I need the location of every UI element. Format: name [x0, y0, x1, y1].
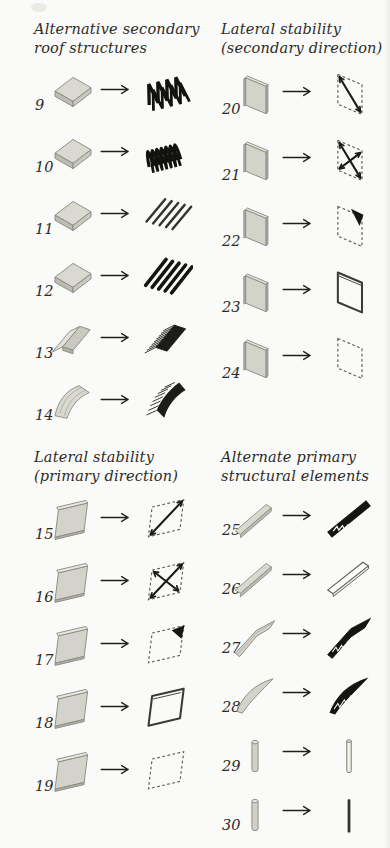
column-solid-icon	[323, 788, 375, 840]
column-icon	[231, 731, 279, 779]
diagram-row: 30	[222, 784, 390, 843]
parallel-joists-icon	[141, 190, 193, 242]
wide-wall-panel-icon	[49, 686, 97, 734]
tall-frame-dashed-icon	[323, 332, 375, 384]
section-lateral-stability-secondary: Lateral stability (secondary direction) …	[217, 20, 390, 391]
truss-beam-icon	[323, 493, 375, 545]
item-number: 12	[35, 283, 49, 309]
item-number: 16	[35, 589, 49, 615]
diagram-row: 24	[222, 325, 390, 391]
diagram-row: 20	[222, 61, 390, 127]
item-number: 11	[35, 221, 49, 247]
section-title: Lateral stability (secondary direction)	[221, 20, 390, 58]
diagram-row: 18	[35, 678, 204, 741]
tall-wall-panel-icon	[231, 136, 279, 184]
arrow-right-icon	[281, 627, 317, 640]
arrow-right-icon	[281, 217, 317, 230]
section-alternate-primary-elements: Alternate primary structural elements 25…	[217, 448, 390, 843]
diagram-row: 17	[35, 615, 204, 678]
section-lateral-stability-primary: Lateral stability (primary direction) 15…	[30, 448, 204, 804]
diagram-rows: 91011121314	[30, 61, 204, 433]
tall-frame-xbrace-icon	[323, 134, 375, 186]
item-number: 30	[222, 817, 231, 843]
open-beam-icon	[323, 552, 375, 604]
wide-wall-panel-icon	[49, 623, 97, 671]
section-title-line: Lateral stability	[221, 20, 390, 39]
diagram-row: 11	[35, 185, 204, 247]
diagram-rows: 2021222324	[217, 61, 390, 391]
diagram-row: 23	[222, 259, 390, 325]
diagram-row: 16	[35, 552, 204, 615]
diagram-row: 25	[222, 489, 390, 548]
column-icon	[231, 790, 279, 838]
arrow-right-icon	[281, 151, 317, 164]
item-number: 19	[35, 778, 49, 804]
item-number: 18	[35, 715, 49, 741]
tall-frame-rigid-icon	[323, 266, 375, 318]
wide-frame-xbrace-icon	[141, 558, 193, 610]
curved-truss-icon	[323, 670, 375, 722]
diagram-rows: 1516171819	[30, 489, 204, 804]
item-number: 9	[35, 97, 49, 123]
item-number: 24	[222, 365, 231, 391]
item-number: 20	[222, 101, 231, 127]
diagram-row: 12	[35, 247, 204, 309]
tapered-beam-icon	[231, 613, 279, 661]
diagram-rows: 252627282930	[217, 489, 390, 843]
column-outline-icon	[323, 729, 375, 781]
section-title: Alternate primary structural elements	[221, 448, 390, 486]
wide-wall-panel-icon	[49, 560, 97, 608]
arrow-right-icon	[281, 804, 317, 817]
tapered-truss-icon	[323, 611, 375, 663]
diagram-row: 28	[222, 666, 390, 725]
section-title-line: roof structures	[34, 39, 204, 58]
zigzag-folded-truss-icon	[141, 66, 193, 118]
beam-icon	[231, 495, 279, 543]
wide-wall-panel-icon	[49, 497, 97, 545]
arrow-right-icon	[281, 283, 317, 296]
diagram-row: 10	[35, 123, 204, 185]
tall-frame-corner-brace-icon	[323, 200, 375, 252]
section-title-line: (secondary direction)	[221, 39, 390, 58]
item-number: 28	[222, 699, 231, 725]
item-number: 10	[35, 159, 49, 185]
curved-beam-icon	[231, 672, 279, 720]
flat-slab-icon	[49, 192, 97, 240]
section-alternative-secondary-roof-structures: Alternative secondary roof structures 91…	[30, 20, 204, 433]
beam-icon	[231, 554, 279, 602]
arrow-right-icon	[99, 511, 135, 524]
diagram-row: 13	[35, 309, 204, 371]
arrow-right-icon	[99, 763, 135, 776]
item-number: 26	[222, 581, 231, 607]
arrow-right-icon	[99, 269, 135, 282]
arrow-right-icon	[99, 145, 135, 158]
wide-frame-rigid-icon	[141, 684, 193, 736]
arrow-right-icon	[99, 83, 135, 96]
wide-wall-panel-icon	[49, 749, 97, 797]
arrow-right-icon	[99, 700, 135, 713]
item-number: 14	[35, 407, 49, 433]
scan-smudge	[31, 3, 47, 12]
diagram-row: 14	[35, 371, 204, 433]
deep-joists-icon	[141, 252, 193, 304]
item-number: 21	[222, 167, 231, 193]
curved-vault-slab-icon	[49, 378, 97, 426]
diagram-row: 22	[222, 193, 390, 259]
tall-wall-panel-icon	[231, 268, 279, 316]
diagram-row: 26	[222, 548, 390, 607]
section-title-line: Lateral stability	[34, 448, 204, 467]
diagram-row: 9	[35, 61, 204, 123]
arrow-right-icon	[99, 393, 135, 406]
ribbed-vault-icon	[141, 376, 193, 428]
tall-wall-panel-icon	[231, 70, 279, 118]
diagram-row: 27	[222, 607, 390, 666]
item-number: 27	[222, 640, 231, 666]
section-title-line: Alternate primary	[221, 448, 390, 467]
ribbed-gable-icon	[141, 314, 193, 366]
flat-slab-icon	[49, 68, 97, 116]
tall-frame-diagonal-icon	[323, 68, 375, 120]
item-number: 25	[222, 522, 231, 548]
tall-wall-panel-icon	[231, 202, 279, 250]
arrow-right-icon	[281, 349, 317, 362]
arrow-right-icon	[99, 331, 135, 344]
